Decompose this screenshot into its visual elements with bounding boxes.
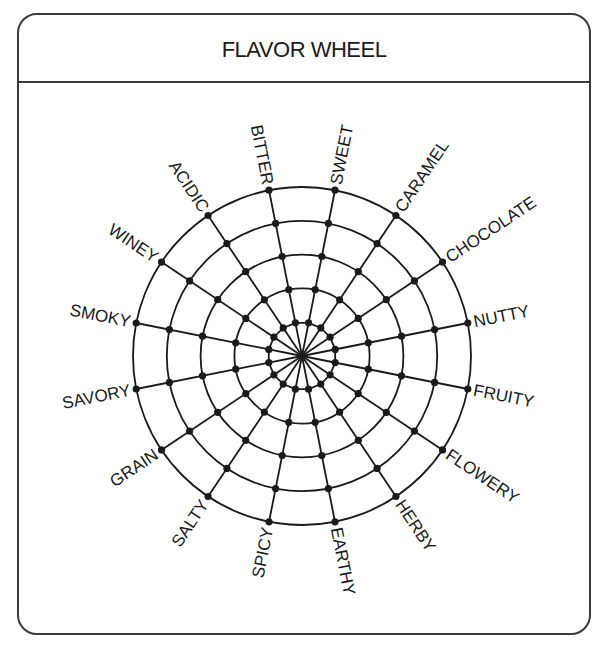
rating-point-bitter-3[interactable] (279, 253, 286, 260)
rating-point-chocolate-5[interactable] (439, 259, 446, 266)
rating-point-sweet-4[interactable] (325, 220, 332, 227)
rating-point-salty-1[interactable] (280, 381, 287, 388)
rating-point-bitter-2[interactable] (285, 286, 292, 293)
rating-point-acidic-4[interactable] (223, 240, 230, 247)
rating-point-winey-4[interactable] (186, 277, 193, 284)
rating-point-fruity-2[interactable] (365, 366, 372, 373)
rating-point-fruity-5[interactable] (464, 385, 471, 392)
rating-point-spicy-1[interactable] (292, 386, 299, 393)
rating-point-earthy-4[interactable] (325, 485, 332, 492)
rating-point-savory-4[interactable] (166, 379, 173, 386)
label-spicy: SPICY (249, 526, 278, 580)
rating-point-sweet-5[interactable] (331, 187, 338, 194)
rating-point-spicy-3[interactable] (279, 452, 286, 459)
rating-point-flowery-5[interactable] (439, 446, 446, 453)
rating-point-winey-5[interactable] (158, 259, 165, 266)
label-grain: GRAIN (106, 445, 161, 491)
label-smoky: SMOKY (68, 301, 132, 332)
rating-point-winey-1[interactable] (270, 334, 277, 341)
label-nutty: NUTTY (472, 302, 531, 332)
rating-point-herby-5[interactable] (392, 493, 399, 500)
rating-point-bitter-1[interactable] (292, 319, 299, 326)
rating-point-acidic-5[interactable] (205, 212, 212, 219)
rating-point-fruity-4[interactable] (431, 379, 438, 386)
flavor-wheel-diagram: NUTTYFRUITYFLOWERYHERBYEARTHYSPICYSALTYG… (0, 0, 608, 657)
rating-point-caramel-4[interactable] (374, 240, 381, 247)
rating-point-salty-5[interactable] (205, 493, 212, 500)
label-herby: HERBY (391, 496, 439, 555)
rating-point-salty-3[interactable] (242, 437, 249, 444)
rating-point-flowery-3[interactable] (383, 409, 390, 416)
rating-point-nutty-2[interactable] (365, 339, 372, 346)
rating-point-herby-4[interactable] (374, 465, 381, 472)
label-earthy: EARTHY (327, 526, 359, 597)
rating-point-herby-3[interactable] (355, 437, 362, 444)
label-bitter: BITTER (247, 123, 277, 186)
rating-point-earthy-3[interactable] (318, 452, 325, 459)
wheel-rating-points (133, 187, 472, 526)
rating-point-savory-5[interactable] (133, 385, 140, 392)
rating-point-fruity-3[interactable] (398, 372, 405, 379)
rating-point-flowery-1[interactable] (327, 371, 334, 378)
rating-point-grain-4[interactable] (186, 428, 193, 435)
rating-point-herby-2[interactable] (336, 409, 343, 416)
rating-point-savory-1[interactable] (265, 359, 272, 366)
rating-point-caramel-2[interactable] (336, 296, 343, 303)
rating-point-herby-1[interactable] (317, 381, 324, 388)
label-sweet: SWEET (327, 123, 357, 186)
rating-point-smoky-5[interactable] (133, 319, 140, 326)
rating-point-grain-5[interactable] (158, 446, 165, 453)
rating-point-winey-2[interactable] (242, 315, 249, 322)
label-flowery: FLOWERY (442, 445, 522, 507)
rating-point-grain-1[interactable] (270, 371, 277, 378)
rating-point-earthy-2[interactable] (312, 419, 319, 426)
label-fruity: FRUITY (472, 381, 536, 412)
label-caramel: CARAMEL (391, 137, 452, 216)
rating-point-flowery-2[interactable] (355, 390, 362, 397)
rating-point-spicy-2[interactable] (285, 419, 292, 426)
rating-point-salty-4[interactable] (223, 465, 230, 472)
rating-point-savory-3[interactable] (199, 372, 206, 379)
label-winey: WINEY (105, 220, 162, 267)
rating-point-spicy-5[interactable] (265, 518, 272, 525)
rating-point-smoky-4[interactable] (166, 326, 173, 333)
rating-point-spicy-4[interactable] (272, 485, 279, 492)
rating-point-nutty-1[interactable] (332, 346, 339, 353)
rating-point-acidic-2[interactable] (261, 296, 268, 303)
rating-point-acidic-3[interactable] (242, 268, 249, 275)
rating-point-fruity-1[interactable] (332, 359, 339, 366)
rating-point-bitter-5[interactable] (265, 187, 272, 194)
rating-point-chocolate-4[interactable] (411, 277, 418, 284)
rating-point-nutty-5[interactable] (464, 319, 471, 326)
rating-point-nutty-4[interactable] (431, 326, 438, 333)
rating-point-winey-3[interactable] (214, 296, 221, 303)
rating-point-earthy-1[interactable] (305, 386, 312, 393)
rating-point-caramel-1[interactable] (317, 324, 324, 331)
rating-point-nutty-3[interactable] (398, 333, 405, 340)
rating-point-sweet-1[interactable] (305, 319, 312, 326)
rating-point-acidic-1[interactable] (280, 324, 287, 331)
label-savory: SAVORY (61, 381, 133, 413)
label-salty: SALTY (168, 496, 213, 550)
rating-point-caramel-3[interactable] (355, 268, 362, 275)
rating-point-chocolate-1[interactable] (327, 334, 334, 341)
rating-point-chocolate-3[interactable] (383, 296, 390, 303)
rating-point-flowery-4[interactable] (411, 428, 418, 435)
rating-point-earthy-5[interactable] (331, 518, 338, 525)
wheel-center (299, 353, 305, 359)
rating-point-grain-2[interactable] (242, 390, 249, 397)
rating-point-smoky-3[interactable] (199, 333, 206, 340)
label-acidic: ACIDIC (165, 157, 213, 215)
rating-point-smoky-1[interactable] (265, 346, 272, 353)
rating-point-chocolate-2[interactable] (355, 315, 362, 322)
rating-point-caramel-5[interactable] (392, 212, 399, 219)
label-chocolate: CHOCOLATE (442, 193, 539, 267)
rating-point-sweet-2[interactable] (312, 286, 319, 293)
rating-point-sweet-3[interactable] (318, 253, 325, 260)
rating-point-savory-2[interactable] (232, 366, 239, 373)
rating-point-smoky-2[interactable] (232, 339, 239, 346)
rating-point-salty-2[interactable] (261, 409, 268, 416)
rating-point-grain-3[interactable] (214, 409, 221, 416)
rating-point-bitter-4[interactable] (272, 220, 279, 227)
